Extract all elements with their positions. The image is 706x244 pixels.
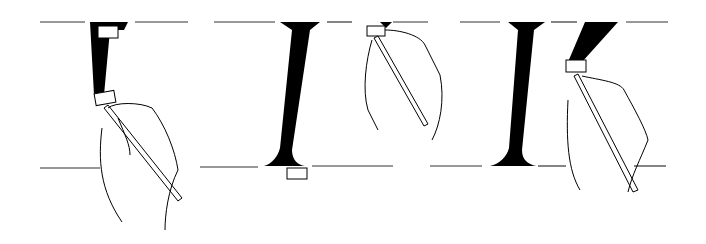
brush-handle-icon: [574, 74, 638, 192]
panel-2: [264, 22, 442, 179]
diagram-svg: [0, 0, 706, 244]
brush-tip-icon: [566, 60, 586, 72]
letter-i-stem: [264, 22, 320, 166]
letter-i: [490, 22, 545, 166]
brush-tip-icon: [98, 26, 118, 38]
k-diagonal-stroke: [568, 22, 618, 62]
brush-tip-icon: [287, 168, 307, 179]
panel-3: [490, 22, 648, 192]
panel-1: [90, 22, 182, 230]
brush-handle-icon: [104, 105, 182, 201]
brush-handle-icon: [374, 36, 428, 126]
calligraphy-diagram: [0, 0, 706, 244]
hand-icon: [100, 104, 178, 231]
